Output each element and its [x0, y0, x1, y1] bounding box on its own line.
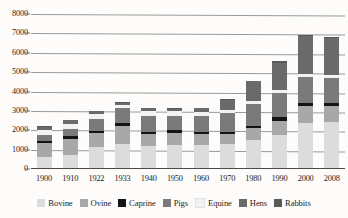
bar-segment-ovine — [324, 106, 339, 122]
bar-segment-pigs — [167, 116, 182, 131]
x-axis-tick-label: 1933 — [110, 172, 136, 186]
bar-segment-pigs — [324, 78, 339, 103]
x-axis-tick-label: 1922 — [83, 172, 109, 186]
legend-swatch-icon — [163, 199, 171, 207]
bar-column[interactable] — [214, 0, 240, 172]
legend-label: Rabbits — [285, 199, 311, 208]
legend-swatch-icon — [37, 199, 45, 207]
bar-segment-bovine — [298, 123, 313, 169]
legend-swatch-icon — [274, 199, 282, 207]
legend-item-caprine[interactable]: Caprine — [118, 199, 156, 208]
legend-swatch-icon — [80, 199, 88, 207]
bar-segment-hens — [324, 38, 339, 75]
bar-stack — [37, 126, 52, 169]
bar-segment-pigs — [141, 116, 156, 132]
bar-segment-ovine — [272, 121, 287, 136]
bar-column[interactable] — [266, 0, 292, 172]
y-axis-tick-mark — [25, 52, 30, 53]
y-axis-tick-mark — [25, 169, 30, 170]
bar-stack — [167, 108, 182, 169]
bar-segment-ovine — [141, 134, 156, 146]
x-axis-tick-label: 1950 — [162, 172, 188, 186]
bar-column[interactable] — [293, 0, 319, 172]
bar-segment-ovine — [220, 134, 235, 144]
legend-item-bovine[interactable]: Bovine — [37, 199, 72, 208]
legend-item-ovine[interactable]: Ovine — [80, 199, 112, 208]
bar-stack — [324, 37, 339, 169]
legend-item-equine[interactable]: Equine — [195, 198, 232, 208]
bar-column[interactable] — [136, 0, 162, 172]
legend-label: Equine — [208, 199, 232, 208]
x-axis-tick-label: 2000 — [293, 172, 319, 186]
bar-column[interactable] — [240, 0, 266, 172]
bar-column[interactable] — [83, 0, 109, 172]
x-axis-tick-label: 1910 — [57, 172, 83, 186]
bar-column[interactable] — [319, 0, 345, 172]
bar-segment-bovine — [220, 144, 235, 169]
x-axis-line — [31, 168, 345, 169]
bar-segment-hens — [246, 81, 261, 101]
bar-segment-bovine — [63, 155, 78, 169]
bar-segment-hens — [272, 63, 287, 91]
y-axis-tick-mark — [25, 91, 30, 92]
stacked-bar-chart: 800070006000500040003000200010000 190019… — [0, 0, 348, 218]
bar-segment-bovine — [89, 147, 104, 169]
bar-segment-hens — [298, 36, 313, 75]
bar-segment-pigs — [220, 113, 235, 131]
bar-column[interactable] — [162, 0, 188, 172]
legend-label: Ovine — [91, 199, 112, 208]
bar-column[interactable] — [57, 0, 83, 172]
x-axis-tick-label: 1990 — [266, 172, 292, 186]
legend-swatch-icon — [239, 199, 247, 207]
bar-segment-bovine — [324, 122, 339, 169]
bar-column[interactable] — [188, 0, 214, 172]
legend-item-rabbits[interactable]: Rabbits — [274, 199, 311, 208]
legend-label: Hens — [250, 199, 267, 208]
x-axis-tick-label: 1980 — [240, 172, 266, 186]
x-axis-labels: 1900191019221933194019501960197019801990… — [31, 172, 345, 186]
legend-label: Bovine — [48, 199, 72, 208]
bar-segment-pigs — [272, 93, 287, 117]
bar-segment-pigs — [63, 129, 78, 136]
y-axis-tick-mark — [25, 110, 30, 111]
x-axis-tick-label: 1900 — [31, 172, 57, 186]
bar-segment-ovine — [63, 139, 78, 156]
bar-segment-ovine — [246, 128, 261, 140]
bar-stack — [63, 120, 78, 169]
y-axis-tick-mark — [25, 14, 30, 15]
y-axis-tick-mark — [25, 72, 30, 73]
bar-segment-pigs — [194, 116, 209, 132]
bar-column[interactable] — [110, 0, 136, 172]
bar-segment-pigs — [89, 119, 104, 131]
legend-swatch-icon — [118, 199, 126, 207]
plot-area: 800070006000500040003000200010000 — [0, 0, 348, 172]
legend-label: Caprine — [129, 199, 156, 208]
bar-segment-ovine — [298, 106, 313, 123]
bar-stack — [298, 35, 313, 169]
y-axis-tick-mark — [25, 33, 30, 34]
bar-column[interactable] — [31, 0, 57, 172]
legend-item-hens[interactable]: Hens — [239, 199, 267, 208]
bar-segment-bovine — [194, 145, 209, 169]
x-axis-tick-label: 2008 — [319, 172, 345, 186]
bar-segment-ovine — [89, 133, 104, 147]
bar-segment-bovine — [141, 146, 156, 169]
bar-series-group — [31, 0, 345, 172]
chart-legend: BovineOvineCaprinePigsEquineHensRabbits — [0, 190, 348, 216]
legend-swatch-icon — [195, 198, 205, 208]
x-axis-tick-label: 1970 — [214, 172, 240, 186]
bar-segment-ovine — [115, 126, 130, 143]
bar-segment-pigs — [298, 77, 313, 102]
bar-segment-ovine — [37, 143, 52, 157]
bar-segment-pigs — [246, 104, 261, 125]
bar-stack — [272, 61, 287, 169]
bar-segment-bovine — [272, 135, 287, 169]
legend-label: Pigs — [174, 199, 188, 208]
bar-stack — [115, 102, 130, 169]
bar-segment-bovine — [115, 144, 130, 169]
bar-stack — [141, 108, 156, 169]
y-axis-tick-mark — [25, 130, 30, 131]
bar-stack — [220, 99, 235, 169]
bar-stack — [246, 81, 261, 169]
legend-item-pigs[interactable]: Pigs — [163, 199, 188, 208]
